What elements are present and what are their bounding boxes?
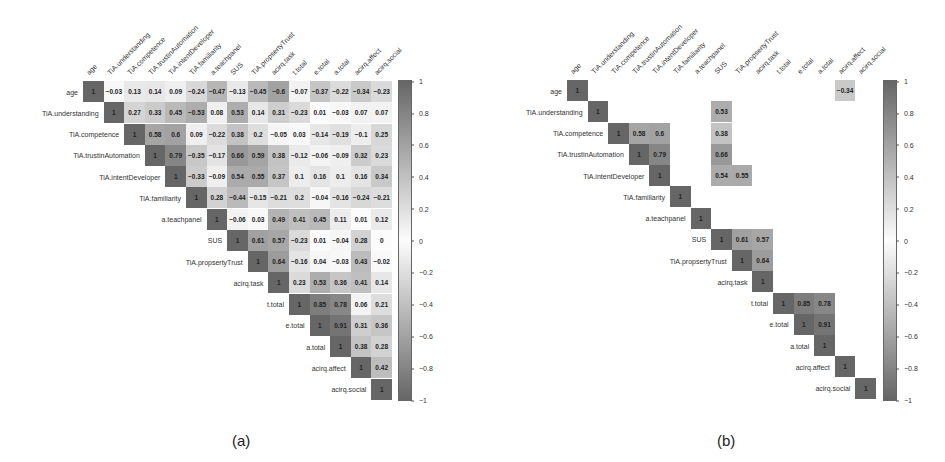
row-label: e.total: [286, 322, 305, 329]
correlation-cell: −0.34: [351, 81, 372, 102]
correlation-cell: −0.06: [310, 145, 331, 166]
correlation-cell: 0: [371, 230, 392, 251]
correlation-cell: −0.03: [330, 102, 351, 123]
correlation-cell: 0.11: [330, 209, 351, 230]
diagonal-cell: 1: [711, 229, 732, 250]
colorbar-tick: 0.4: [896, 173, 914, 180]
correlation-cell: −0.19: [330, 124, 351, 145]
row-label: t.total: [751, 300, 768, 307]
row-label: acirq.task: [717, 278, 747, 285]
correlation-cell: −0.44: [227, 187, 248, 208]
colorbar-tick: −0.2: [411, 269, 433, 276]
colorbar-tick: 0.8: [896, 109, 914, 116]
panel-b: (b) ageageTiA.understandingTiA.understan…: [485, 0, 945, 462]
correlation-cell: −0.17: [207, 145, 228, 166]
correlation-cell: 0.55: [732, 165, 753, 186]
correlation-cell: 0.57: [268, 230, 289, 251]
diagonal-cell: 1: [567, 80, 588, 101]
correlation-cell: 0.43: [351, 251, 372, 272]
row-label: a.teachpanel: [646, 215, 686, 222]
correlation-cell: 0.01: [310, 102, 331, 123]
correlation-cell: 0.2: [289, 187, 310, 208]
colorbar-tick: 0.6: [411, 141, 429, 148]
caption-b: (b): [717, 432, 735, 449]
correlation-cell: 0.28: [371, 336, 392, 357]
correlation-cell: 0.08: [207, 102, 228, 123]
correlation-cell: 0.6: [165, 124, 186, 145]
correlation-cell: −0.06: [227, 209, 248, 230]
correlation-cell: 0.16: [310, 166, 331, 187]
column-label: a.total: [816, 57, 834, 75]
correlation-cell: −0.16: [289, 251, 310, 272]
correlation-cell: 0.14: [145, 81, 166, 102]
colorbar-b: [883, 80, 897, 401]
diagonal-cell: 1: [83, 81, 104, 102]
correlation-cell: 0.61: [732, 229, 753, 250]
row-label: SUS: [692, 236, 706, 243]
correlation-cell: −0.22: [330, 81, 351, 102]
correlation-cell: −0.09: [330, 145, 351, 166]
diagonal-cell: 1: [351, 357, 372, 378]
row-label: a.total: [306, 343, 325, 350]
diagonal-cell: 1: [104, 102, 125, 123]
correlation-cell: 0.54: [711, 165, 732, 186]
correlation-cell: 0.57: [752, 229, 773, 250]
panel-a: (a) ageageTiA.understandingTiA.understan…: [0, 0, 470, 462]
correlation-cell: 0.09: [165, 81, 186, 102]
correlation-cell: −0.22: [207, 124, 228, 145]
row-label: TiA.understanding: [42, 109, 99, 116]
row-label: acirq.affect: [312, 364, 346, 371]
row-label: TiA.trustinAutomation: [73, 152, 140, 159]
colorbar-tick: 0: [411, 237, 423, 244]
correlation-cell: 0.1: [330, 166, 351, 187]
correlation-cell: 0.58: [145, 124, 166, 145]
correlation-cell: 0.34: [371, 166, 392, 187]
correlation-cell: 0.61: [248, 230, 269, 251]
correlation-cell: 0.01: [351, 209, 372, 230]
correlation-cell: 0.53: [711, 101, 732, 122]
row-label: age: [66, 88, 78, 95]
correlation-cell: 0.1: [289, 166, 310, 187]
row-label: TiA.competence: [69, 131, 119, 138]
diagonal-cell: 1: [371, 379, 392, 400]
correlation-cell: −0.33: [186, 166, 207, 187]
correlation-cell: 0.66: [711, 144, 732, 165]
row-label: acirq.task: [233, 279, 263, 286]
correlation-cell: 0.2: [248, 124, 269, 145]
correlation-cell: 0.58: [629, 123, 650, 144]
colorbar-tick: −0.4: [896, 301, 918, 308]
correlation-cell: 0.91: [330, 315, 351, 336]
colorbar-tick: −1: [411, 397, 427, 404]
correlation-cell: 0.27: [124, 102, 145, 123]
correlation-cell: 0.49: [268, 209, 289, 230]
diagonal-cell: 1: [629, 144, 650, 165]
correlation-cell: −0.21: [371, 187, 392, 208]
correlation-cell: −0.14: [310, 124, 331, 145]
column-label: age: [85, 63, 98, 76]
diagonal-cell: 1: [186, 187, 207, 208]
correlation-cell: 0.28: [351, 230, 372, 251]
correlation-cell: 0.79: [165, 145, 186, 166]
row-label: TiA.propsertyTrust: [670, 257, 727, 264]
row-label: TiA.intentDeveloper: [583, 172, 644, 179]
diagonal-cell: 1: [165, 166, 186, 187]
correlation-cell: −0.6: [268, 81, 289, 102]
correlation-cell: 0.07: [351, 102, 372, 123]
correlation-cell: 0.23: [371, 145, 392, 166]
correlation-cell: −0.09: [207, 166, 228, 187]
correlation-cell: 0.21: [371, 294, 392, 315]
correlation-cell: −0.13: [227, 81, 248, 102]
correlation-cell: −0.53: [186, 102, 207, 123]
colorbar-tick: −0.8: [896, 365, 918, 372]
correlation-cell: −0.24: [351, 187, 372, 208]
colorbar-tick: 0.2: [411, 205, 429, 212]
correlation-cell: 0.37: [268, 166, 289, 187]
diagonal-cell: 1: [330, 336, 351, 357]
colorbar-tick: −0.6: [896, 333, 918, 340]
column-label: a.total: [332, 58, 350, 76]
correlation-cell: 0.14: [371, 272, 392, 293]
correlation-cell: 0.28: [207, 187, 228, 208]
row-label: acirq.social: [815, 385, 850, 392]
correlation-cell: 0.31: [351, 315, 372, 336]
correlation-cell: 0.07: [371, 102, 392, 123]
